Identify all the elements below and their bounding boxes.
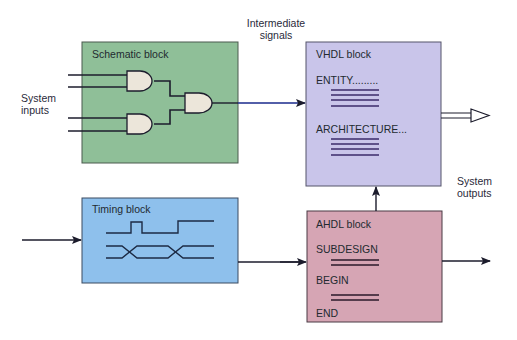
system-outputs-label-line1: System (457, 175, 492, 187)
and-gate-icon (127, 114, 152, 134)
diagram-canvas (0, 0, 517, 340)
timing-block-title: Timing block (92, 203, 151, 215)
vhdl-architecture-text: ARCHITECTURE... (316, 123, 407, 135)
vhdl-block (306, 42, 441, 186)
ahdl-begin-text: BEGIN (316, 274, 349, 286)
system-outputs-label-line2: outputs (457, 187, 492, 199)
ahdl-subdesign-text: SUBDESIGN (316, 243, 378, 255)
intermediate-signals-label-line1: Intermediate (243, 17, 309, 29)
and-gate-icon (185, 93, 212, 113)
and-gate-icon (127, 71, 152, 91)
ahdl-end-text: END (316, 307, 338, 319)
system-output-bus-arrow (441, 109, 489, 122)
system-inputs-label-line2: inputs (21, 104, 56, 116)
schematic-block-title: Schematic block (92, 48, 168, 60)
intermediate-signals-label: Intermediate signals (243, 17, 309, 41)
ahdl-block-title: AHDL block (316, 218, 371, 230)
vhdl-entity-text: ENTITY......... (316, 74, 378, 86)
intermediate-signals-label-line2: signals (243, 29, 309, 41)
vhdl-block-title: VHDL block (316, 48, 371, 60)
system-inputs-label-line1: System (21, 92, 56, 104)
system-inputs-label: System inputs (21, 92, 56, 116)
system-outputs-label: System outputs (457, 175, 492, 199)
